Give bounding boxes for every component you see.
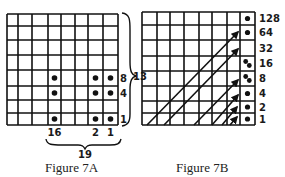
marker-dot <box>245 16 250 21</box>
figure-7a-grid: 8411621 <box>7 14 127 138</box>
row-value-label: 8 <box>120 73 127 84</box>
figure-7a-caption: Figure 7A <box>45 160 99 175</box>
bottom-brace <box>46 139 121 149</box>
figure-7b-caption: Figure 7B <box>176 160 229 175</box>
right-brace <box>122 13 136 126</box>
marker-dot <box>247 78 252 83</box>
row-value-label: 64 <box>259 27 273 38</box>
row-value-label: 128 <box>259 13 280 24</box>
marker-dot <box>243 59 248 64</box>
row-value-label: 4 <box>120 88 127 99</box>
marker-dot <box>93 116 99 122</box>
figure-canvas: 8411621 13 19 Figure 7A 1286432168421 Fi… <box>0 0 285 177</box>
marker-dot <box>245 104 250 109</box>
marker-dot <box>247 63 252 68</box>
marker-dot <box>245 116 250 121</box>
row-value-label: 8 <box>259 73 266 84</box>
row-value-label: 2 <box>259 102 266 113</box>
marker-dot <box>245 30 250 35</box>
row-value-label: 4 <box>259 88 266 99</box>
col-value-label: 16 <box>48 127 62 138</box>
col-sum-label: 19 <box>78 149 92 160</box>
diagonal-arrow <box>230 117 237 125</box>
marker-dot <box>108 75 114 81</box>
marker-dot <box>245 91 250 96</box>
col-value-label: 1 <box>107 127 114 138</box>
marker-dot <box>108 90 114 96</box>
marker-dot <box>52 75 58 81</box>
row-value-label: 32 <box>259 43 273 54</box>
row-value-label: 1 <box>259 114 266 125</box>
marker-dot <box>52 116 58 122</box>
marker-dot <box>243 74 248 79</box>
marker-dot <box>108 116 114 122</box>
marker-dot <box>93 75 99 81</box>
marker-dot <box>52 90 58 96</box>
row-value-label: 16 <box>259 58 273 69</box>
row-value-label: 1 <box>120 114 127 125</box>
row-sum-label: 13 <box>133 71 147 82</box>
marker-dot <box>93 90 99 96</box>
col-value-label: 2 <box>92 127 99 138</box>
figure-7b-grid: 1286432168421 <box>142 12 280 125</box>
